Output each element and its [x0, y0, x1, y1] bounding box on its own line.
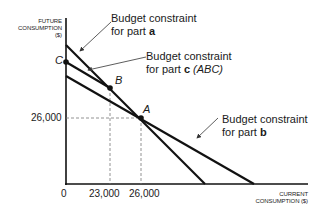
y-axis-title-line1: FUTURE [18, 18, 62, 25]
annotation-part-a: Budget constraint for part a [111, 12, 197, 38]
annotation-part-b: Budget constraint for part b [222, 113, 308, 139]
point-c-marker [63, 59, 69, 65]
y-axis-title: FUTURE CONSUMPTION ($) [18, 18, 62, 39]
origin-label: 0 [61, 189, 67, 199]
annotation-part-c-prefix: for part [146, 63, 184, 75]
annotation-part-a-line2: for part a [111, 25, 197, 38]
point-c-label: C [55, 55, 63, 66]
annotation-part-c-line1: Budget constraint [146, 50, 232, 63]
annotation-part-c: Budget constraint for part c (ABC) [146, 50, 232, 76]
point-b-label: B [115, 75, 122, 86]
point-b-marker [107, 85, 113, 91]
x-axis-title-line1: CURRENT [255, 191, 308, 198]
annotation-part-a-prefix: for part [111, 25, 149, 37]
annotation-part-a-bold: a [149, 25, 155, 37]
annotation-part-b-line2: for part b [222, 126, 308, 139]
y-axis-title-line3: ($) [18, 32, 62, 39]
annotation-part-c-line2: for part c (ABC) [146, 63, 232, 76]
arrow-part-b [197, 118, 218, 138]
y-tick-26000: 26,000 [31, 113, 62, 123]
y-axis-title-line2: CONSUMPTION [18, 25, 62, 32]
x-tick-23000: 23,000 [89, 189, 120, 199]
x-axis-title-line2: CONSUMPTION ($) [255, 198, 308, 205]
arrow-part-a [80, 22, 111, 51]
annotation-part-b-prefix: for part [222, 126, 260, 138]
annotation-part-b-bold: b [260, 126, 267, 138]
arrow-part-c [88, 57, 146, 70]
annotation-part-c-suffix: (ABC) [190, 63, 223, 75]
point-a-marker [138, 115, 144, 121]
annotation-part-b-line1: Budget constraint [222, 113, 308, 126]
x-axis-title: CURRENT CONSUMPTION ($) [255, 191, 308, 205]
x-tick-26000: 26,000 [129, 189, 160, 199]
annotation-part-a-line1: Budget constraint [111, 12, 197, 25]
point-a-label: A [143, 104, 150, 115]
